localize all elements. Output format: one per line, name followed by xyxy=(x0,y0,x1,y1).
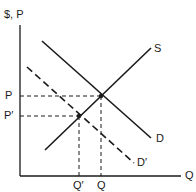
supply-demand-diagram xyxy=(0,0,196,192)
equilibrium-point-prime xyxy=(77,114,81,118)
x-axis-label: Q xyxy=(185,170,194,181)
y-axis-label: $, P xyxy=(4,9,24,20)
equilibrium-point xyxy=(99,94,103,98)
demand-label: D xyxy=(156,133,164,144)
supply-label: S xyxy=(154,43,161,54)
quantity-label-q: Q xyxy=(97,180,106,191)
supply-curve xyxy=(45,48,151,150)
price-label-p: P xyxy=(5,90,12,101)
demand-curve xyxy=(42,41,151,138)
demand-prime-label: D′ xyxy=(137,157,147,168)
quantity-label-q-prime: Q′ xyxy=(73,180,84,191)
price-label-p-prime: P′ xyxy=(4,110,13,121)
